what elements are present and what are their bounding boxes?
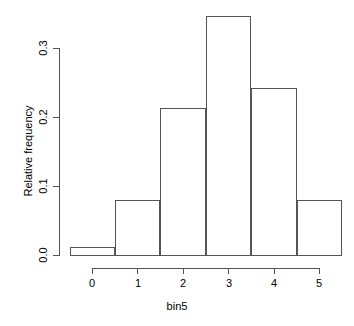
y-axis-tick-label: 0.1 [37, 171, 49, 201]
histogram-bar [251, 88, 297, 256]
y-axis-tick-label: 0.2 [37, 102, 49, 132]
histogram-bar [70, 247, 115, 256]
y-axis-tick [53, 186, 59, 187]
x-axis-tick [92, 268, 93, 274]
histogram-bar [115, 200, 160, 256]
x-axis-tick-label: 2 [163, 277, 203, 289]
x-axis-tick [228, 268, 229, 274]
x-axis-tick-label: 1 [118, 277, 158, 289]
plot-area: 0.0 0.1 0.2 0.3 Relative frequency 0 1 2… [0, 0, 354, 326]
x-axis-tick-label: 0 [72, 277, 112, 289]
x-axis-tick [319, 268, 320, 274]
y-axis-line [59, 48, 60, 256]
y-axis-tick [53, 255, 59, 256]
histogram-bar [206, 16, 251, 256]
x-axis-tick [274, 268, 275, 274]
histogram-bar [297, 200, 342, 256]
x-axis-tick [137, 268, 138, 274]
histogram-chart: 0.0 0.1 0.2 0.3 Relative frequency 0 1 2… [0, 0, 354, 326]
x-axis-tick [183, 268, 184, 274]
y-axis-title: Relative frequency [22, 81, 34, 221]
x-axis-title: bin5 [0, 300, 354, 312]
x-axis-tick-label: 5 [299, 277, 339, 289]
x-axis-tick-label: 4 [254, 277, 294, 289]
x-axis-line [92, 268, 320, 269]
y-axis-tick-label: 0.3 [37, 33, 49, 63]
y-axis-tick [53, 117, 59, 118]
x-axis-tick-label: 3 [209, 277, 249, 289]
histogram-bar [160, 108, 206, 256]
y-axis-tick [53, 48, 59, 49]
y-axis-tick-label: 0.0 [37, 240, 49, 270]
